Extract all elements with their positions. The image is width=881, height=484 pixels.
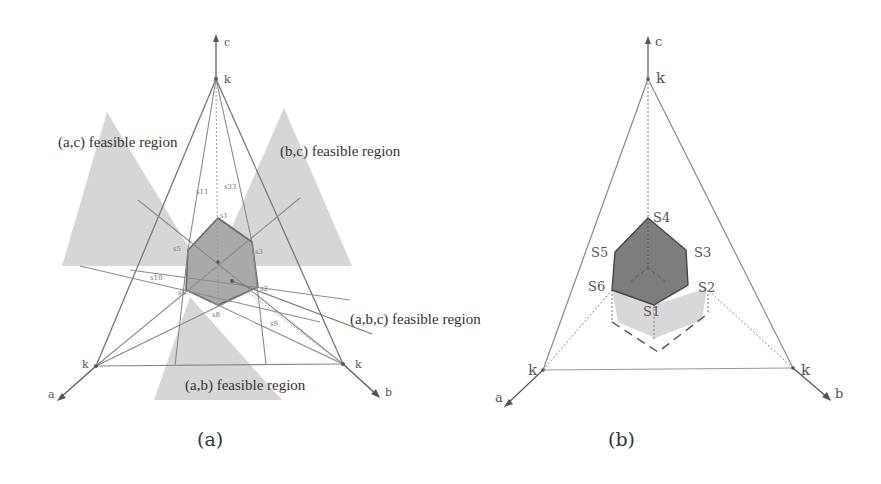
vertex-k-left: k — [82, 358, 89, 371]
label-bc-region: (b,c) feasible region — [280, 143, 400, 160]
vertex-k-top: k — [656, 69, 665, 87]
vertex-k-left: k — [528, 361, 537, 379]
panel-b: c k k k a b S4 S5 S3 S6 S2 S1 (b) — [440, 0, 881, 484]
point-s3: S3 — [694, 245, 711, 260]
point-s5: S5 — [591, 245, 608, 260]
axis-b-label: b — [835, 386, 843, 401]
vertex-k-top: k — [224, 73, 231, 86]
feasible-solid — [612, 218, 688, 305]
vertex-k-right: k — [801, 361, 810, 379]
axis-b-label: b — [385, 386, 392, 399]
panel-a: c k k k a b s11 s33 s1 s5 s3 s10 s6 s2 s… — [0, 0, 440, 484]
label-ab-region: (a,b) feasible region — [185, 377, 305, 394]
point-s33: s33 — [224, 183, 237, 191]
point-s1: S1 — [643, 304, 660, 319]
point-s2: S2 — [698, 280, 715, 295]
point-s10: s10 — [150, 274, 163, 282]
point-s9: s9 — [270, 320, 278, 328]
point-s2: s2 — [260, 285, 268, 293]
point-s11: s11 — [196, 188, 209, 196]
axis-a-label: a — [48, 388, 55, 401]
point-s4: S4 — [653, 210, 670, 225]
point-s1: s1 — [220, 212, 228, 220]
point-s8: s8 — [212, 311, 220, 319]
vertex-k-right: k — [355, 358, 362, 371]
point-s6: s6 — [178, 289, 186, 297]
point-s6: S6 — [588, 279, 605, 294]
label-ac-region: (a,c) feasible region — [58, 134, 178, 151]
axis-c-label: c — [224, 36, 230, 49]
point-s3: s3 — [255, 248, 263, 256]
point-s5: s5 — [173, 245, 181, 253]
diagram-a-graphic — [0, 0, 440, 484]
caption-b: (b) — [608, 428, 635, 450]
caption-a: (a) — [197, 428, 223, 450]
axis-a-label: a — [495, 390, 503, 405]
axis-c-label: c — [655, 34, 662, 49]
